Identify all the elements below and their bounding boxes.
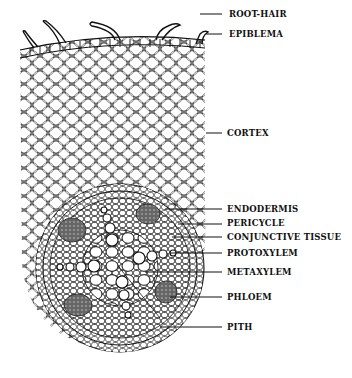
label-pericycle: PERICYCLE [227,218,285,228]
phloem-patch [136,204,160,224]
label-endodermis: ENDODERMIS [227,204,298,214]
label-epiblema: EPIBLEMA [229,29,283,39]
label-root-hair: ROOT-HAIR [229,9,287,19]
label-cortex: CORTEX [227,128,269,138]
root-cross-section-diagram [0,0,352,378]
phloem-patch [155,281,177,303]
label-conjunctive-tissue: CONJUNCTIVE TISSUE [227,232,341,242]
label-protoxylem: PROTOXYLEM [227,248,298,258]
phloem-patch [58,218,86,242]
label-phloem: PHLOEM [227,292,272,302]
label-pith: PITH [227,322,253,332]
label-metaxylem: METAXYLEM [227,267,292,277]
phloem-patch [64,294,92,316]
